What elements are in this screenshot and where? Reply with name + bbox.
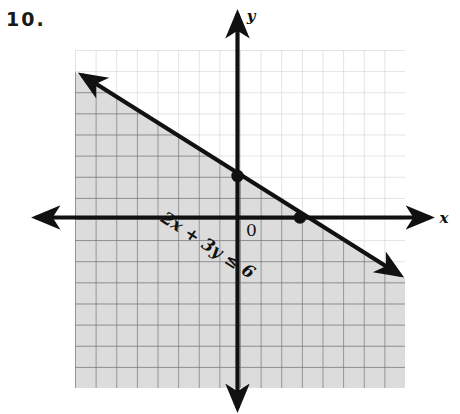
y-axis-label: y (246, 7, 257, 25)
point-y-intercept (231, 170, 243, 182)
coordinate-plane: x y 0 2x + 3y ≤ 6 (0, 0, 460, 414)
origin-label: 0 (246, 220, 257, 240)
worksheet-graph-figure: 10. (0, 0, 460, 414)
x-axis-label: x (439, 209, 450, 227)
point-x-intercept (294, 211, 306, 223)
